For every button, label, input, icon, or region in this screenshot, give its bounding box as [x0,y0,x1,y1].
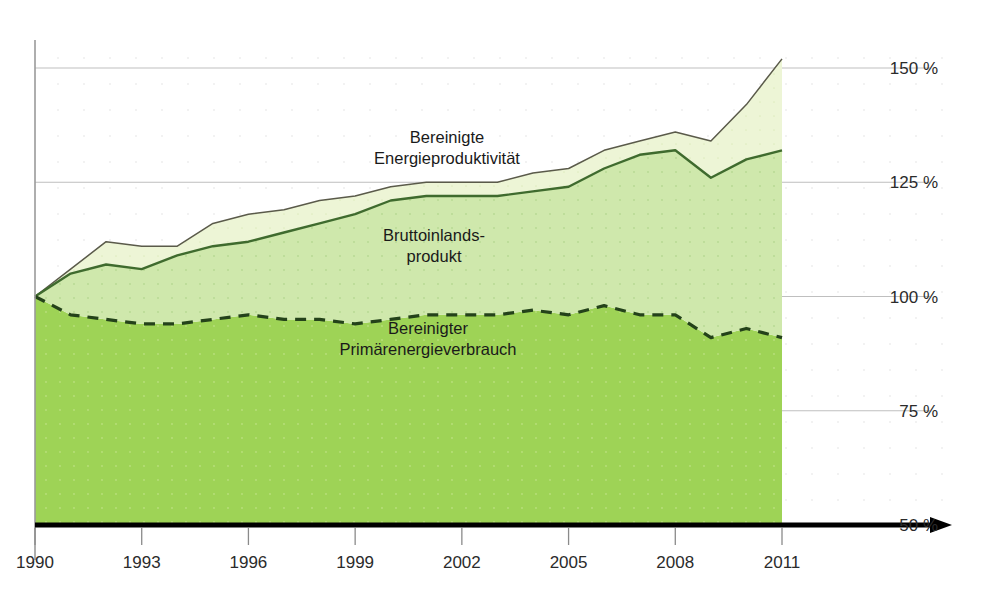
x-tick-label-2005: 2005 [550,553,588,572]
chart-container: 19901993199619992002200520082011 150 %12… [0,0,990,595]
y-tick-label-125: 125 % [890,173,938,192]
x-tick-label-1996: 1996 [230,553,268,572]
energy-productivity-area-chart: 19901993199619992002200520082011 150 %12… [0,0,990,595]
x-tick-label-1999: 1999 [336,553,374,572]
x-tick-label-1990: 1990 [16,553,54,572]
y-tick-label-50: 50 % [899,516,938,535]
y-tick-label-100: 100 % [890,288,938,307]
x-tick-label-1993: 1993 [123,553,161,572]
x-axis-ticks: 19901993199619992002200520082011 [16,528,800,572]
x-tick-label-2011: 2011 [764,553,801,572]
x-tick-label-2008: 2008 [656,553,694,572]
y-tick-label-75: 75 % [899,402,938,421]
x-tick-label-2002: 2002 [443,553,481,572]
y-tick-label-150: 150 % [890,59,938,78]
